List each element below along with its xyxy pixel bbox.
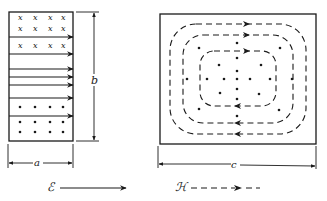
svg-text:x: x <box>33 41 38 50</box>
dimension-c <box>158 146 316 169</box>
svg-text:x: x <box>61 13 66 22</box>
svg-text:x: x <box>18 13 23 22</box>
legend-magnetic-arrow <box>191 185 260 191</box>
svg-text:x: x <box>33 13 38 22</box>
svg-text:x: x <box>61 24 66 33</box>
dot-markers <box>19 106 65 134</box>
svg-text:x: x <box>48 41 53 50</box>
legend-electric-symbol: ℰ <box>47 180 56 194</box>
label-c: c <box>231 159 237 170</box>
svg-text:x: x <box>18 24 23 33</box>
legend-magnetic-symbol: ℋ <box>175 180 189 194</box>
legend: ℰ ℋ <box>47 180 260 194</box>
right-panel: c <box>158 14 316 170</box>
left-panel: x x x x x x x x x x x x b <box>8 12 99 168</box>
field-diagram: x x x x x x x x x x x x b <box>0 0 327 201</box>
x-markers: x x x x x x x x x x x x <box>18 13 66 50</box>
svg-text:x: x <box>61 41 66 50</box>
label-a: a <box>34 157 40 168</box>
dimension-a <box>8 144 73 168</box>
svg-text:x: x <box>33 24 38 33</box>
svg-text:x: x <box>48 24 53 33</box>
svg-text:x: x <box>48 13 53 22</box>
label-b: b <box>91 74 98 87</box>
svg-text:x: x <box>18 41 23 50</box>
